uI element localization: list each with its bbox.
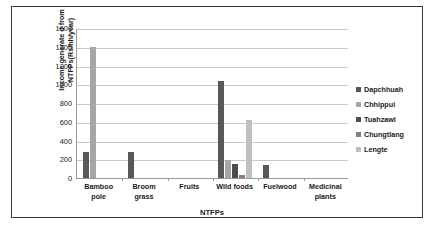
category-label-line: Medicinal — [303, 182, 348, 192]
legend-swatch-icon — [356, 147, 361, 152]
y-tick-label: 1400 — [32, 44, 72, 52]
y-tick-label: 400 — [32, 138, 72, 146]
category-label-line: Wild foods — [212, 182, 257, 192]
legend-label: Lengte — [364, 145, 388, 154]
bar — [225, 160, 231, 178]
y-axis-tick-labels: 16001400120010008006004002000 — [30, 7, 72, 187]
legend-item[interactable]: Chhippui — [356, 97, 426, 112]
bar — [232, 164, 238, 178]
bar — [263, 165, 269, 178]
x-tick-mark — [168, 178, 169, 181]
bar — [90, 47, 96, 178]
bar — [239, 175, 245, 178]
category-label-line: Fuelwood — [257, 182, 302, 192]
y-tick-label: 1600 — [32, 25, 72, 33]
chart-frame: Income generate d from NTFPs(Rs/hh/year)… — [11, 6, 423, 218]
category-label-line — [212, 192, 257, 202]
bar-group — [167, 29, 212, 178]
x-axis-title: NTFPs — [76, 208, 348, 217]
y-tick-label: 0 — [32, 175, 72, 183]
legend-label: Chungtlang — [364, 130, 404, 139]
bar-group — [213, 29, 258, 178]
bar — [218, 81, 224, 178]
y-tick-label: 200 — [32, 156, 72, 164]
bar — [246, 120, 252, 178]
category-label-line: pole — [76, 192, 121, 202]
plot-area — [76, 29, 348, 179]
bar-groups — [77, 29, 348, 178]
bar — [83, 152, 89, 178]
category-label-line — [167, 192, 212, 202]
legend-item[interactable]: Dapchhuah — [356, 82, 426, 97]
y-tick-label: 600 — [32, 119, 72, 127]
x-tick-mark — [258, 178, 259, 181]
category-label: Bamboopole — [76, 182, 121, 208]
legend-item[interactable]: Tuahzawl — [356, 112, 426, 127]
legend-swatch-icon — [356, 87, 361, 92]
legend-label: Tuahzawl — [364, 115, 396, 124]
bar-group — [303, 29, 348, 178]
legend-item[interactable]: Lengte — [356, 142, 426, 157]
y-tick-label: 1200 — [32, 63, 72, 71]
category-label-line — [257, 192, 302, 202]
bar-group — [77, 29, 122, 178]
category-label: Fuelwood — [257, 182, 302, 208]
category-label: Fruits — [167, 182, 212, 208]
legend-label: Dapchhuah — [364, 85, 403, 94]
chart-legend: DapchhuahChhippuiTuahzawlChungtlangLengt… — [356, 82, 426, 157]
bar-group — [258, 29, 303, 178]
category-label: Broomgrass — [121, 182, 166, 208]
legend-swatch-icon — [356, 117, 361, 122]
x-tick-mark — [122, 178, 123, 181]
category-label-line: plants — [303, 192, 348, 202]
bar — [128, 152, 134, 178]
x-axis-category-labels: BamboopoleBroomgrassFruits Wild foods Fu… — [76, 182, 348, 208]
bar-group — [122, 29, 167, 178]
x-tick-mark — [304, 178, 305, 181]
category-label-line: grass — [121, 192, 166, 202]
x-tick-mark — [213, 178, 214, 181]
category-label-line: Broom — [121, 182, 166, 192]
y-tick-label: 800 — [32, 100, 72, 108]
category-label-line: Fruits — [167, 182, 212, 192]
category-label: Wild foods — [212, 182, 257, 208]
legend-swatch-icon — [356, 102, 361, 107]
category-label-line: Bamboo — [76, 182, 121, 192]
category-label: Medicinalplants — [303, 182, 348, 208]
legend-swatch-icon — [356, 132, 361, 137]
y-tick-label: 1000 — [32, 81, 72, 89]
legend-item[interactable]: Chungtlang — [356, 127, 426, 142]
legend-label: Chhippui — [364, 100, 395, 109]
